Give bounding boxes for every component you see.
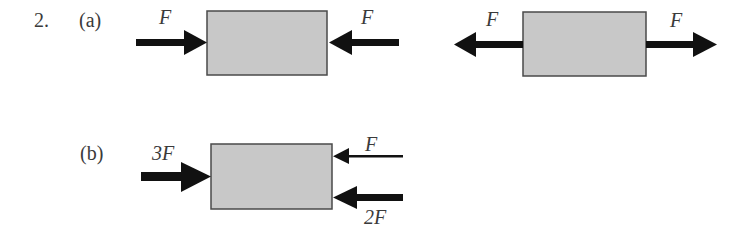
- force-label-a2-left: F: [486, 8, 498, 31]
- block-a-compression: [207, 11, 327, 75]
- force-label-b-3f: 3F: [152, 142, 174, 165]
- block-b: [211, 144, 332, 209]
- force-diagrams: [0, 0, 746, 235]
- arrow-a2-right-force: [646, 32, 717, 57]
- force-label-b-f: F: [365, 133, 377, 156]
- arrow-a1-left-force: [136, 30, 207, 55]
- force-label-a1-right: F: [361, 6, 373, 29]
- arrow-a2-left-force: [454, 32, 523, 57]
- force-label-a1-left: F: [159, 6, 171, 29]
- force-label-a2-right: F: [670, 9, 682, 32]
- arrow-b-3f-force: [141, 162, 211, 192]
- block-a-tension: [523, 12, 646, 76]
- arrow-a1-right-force: [329, 30, 399, 55]
- force-label-b-2f: 2F: [364, 206, 386, 229]
